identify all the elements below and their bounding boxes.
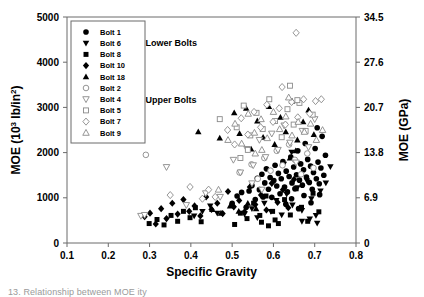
chart-legend: Bolt 1Bolt 6Bolt 8Bolt 10Bolt 18Bolt 2Bo… [71,21,145,143]
data-point-bolt-8 [259,220,264,225]
data-point-bolt-1 [318,165,324,171]
data-point-bolt-9 [283,113,289,119]
data-point-bolt-1 [321,172,327,178]
x-tick-label: 0.7 [308,250,322,261]
data-point-bolt-9 [251,129,257,135]
data-point-bolt-4 [163,165,169,171]
data-point-bolt-4 [230,157,236,163]
data-point-bolt-6 [261,201,267,207]
legend-label: Bolt 6 [100,39,121,48]
data-point-legend-2 [84,52,89,57]
legend-label: Bolt 4 [100,95,122,104]
y-tick-label-right: 0 [364,238,370,249]
data-point-bolt-1 [315,159,321,165]
data-point-bolt-2 [268,168,274,174]
data-points-layer [138,29,334,228]
data-point-bolt-1 [316,181,322,187]
data-point-bolt-7 [167,192,173,199]
data-point-bolt-8 [257,213,262,218]
x-axis-title: Specific Gravity [166,265,257,279]
y-tick-label-left: 3000 [37,102,60,113]
y-tick-label-left: 4000 [37,57,60,68]
data-point-bolt-1 [314,125,320,131]
data-point-legend-0 [83,29,89,35]
data-point-bolt-2 [298,171,304,177]
data-point-bolt-6 [283,192,289,198]
data-point-bolt-2 [311,165,317,171]
x-tick-label: 0.6 [266,250,280,261]
data-point-bolt-10 [158,205,164,212]
data-point-bolt-8 [294,186,299,191]
data-point-bolt-1 [297,177,303,183]
data-point-bolt-1 [323,153,329,159]
data-point-bolt-9 [258,116,264,122]
data-point-bolt-6 [299,219,305,225]
data-point-legend-7 [84,108,89,113]
data-point-bolt-8 [169,213,174,218]
data-point-bolt-7 [238,115,244,122]
data-point-bolt-8 [188,215,193,220]
data-point-bolt-9 [313,137,319,143]
x-tick-label: 0.1 [60,250,74,261]
data-point-bolt-2 [143,152,149,158]
data-point-bolt-1 [286,174,292,180]
y-tick-label-right: 34.5 [364,12,384,23]
data-point-bolt-1 [278,176,284,182]
data-point-bolt-7 [231,141,237,148]
data-point-bolt-7 [279,83,285,90]
data-point-bolt-1 [276,171,282,177]
data-point-bolt-5 [279,135,284,140]
annotation-lower-bolts: Lower Bolts [145,38,197,48]
data-point-bolt-8 [282,197,287,202]
data-point-bolt-9 [319,127,325,133]
legend-label: Bolt 7 [100,117,121,126]
data-point-bolt-18 [245,200,251,206]
data-point-bolt-8 [305,219,310,224]
legend-label: Bolt 2 [100,84,121,93]
y-tick-label-right: 13.8 [364,147,384,158]
data-point-bolt-9 [245,110,251,116]
data-point-bolt-7 [224,126,230,133]
data-point-bolt-2 [255,176,261,182]
data-point-bolt-7 [312,98,318,105]
data-point-bolt-5 [241,103,246,108]
data-point-bolt-2 [304,151,310,157]
data-point-bolt-1 [266,186,272,192]
data-point-bolt-7 [187,183,193,190]
legend-label: Bolt 5 [100,106,121,115]
data-point-bolt-10 [169,200,175,207]
data-point-bolt-4 [269,131,275,137]
data-point-bolt-4 [305,145,311,151]
legend-label: Bolt 1 [100,28,121,37]
legend-label: Bolt 10 [100,61,125,70]
data-point-bolt-5 [287,83,292,88]
data-point-bolt-18 [236,130,242,136]
x-tick-label: 0.4 [184,250,198,261]
data-point-bolt-18 [195,128,201,134]
legend-label: Bolt 18 [100,73,125,82]
data-point-bolt-7 [318,96,324,103]
data-point-bolt-9 [285,94,291,100]
data-point-bolt-6 [278,212,284,218]
data-point-bolt-10 [263,206,269,213]
data-point-bolt-5 [238,156,243,161]
y-tick-label-left: 0 [53,238,59,249]
data-point-bolt-5 [295,98,300,103]
annotations-layer: Lower BoltsUpper Bolts [145,38,197,105]
data-point-bolt-1 [259,171,265,177]
y-tick-label-left: 2000 [37,147,60,158]
data-point-bolt-10 [225,188,231,195]
x-tick-label: 0.2 [101,250,115,261]
x-tick-label: 0.5 [225,250,239,261]
data-point-bolt-9 [232,120,238,126]
data-point-bolt-9 [215,186,221,192]
data-point-bolt-18 [217,135,223,141]
data-point-bolt-6 [327,164,333,170]
data-point-bolt-9 [307,120,313,126]
data-point-bolt-8 [288,212,293,217]
legend-label: Bolt 8 [100,50,121,59]
y-axis-title-left: MOE (103 lb/in2) [9,86,23,175]
data-point-bolt-8 [199,219,204,224]
